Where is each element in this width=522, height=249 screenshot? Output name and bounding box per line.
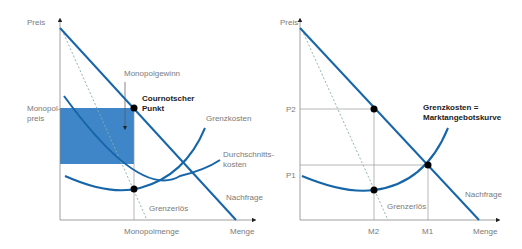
m2-label: M2 <box>368 227 380 236</box>
cournot-label-1: Cournotscher <box>142 94 194 103</box>
right-grenzkosten-curve <box>302 128 448 191</box>
durchschnittskosten-label-2: kosten <box>223 160 247 169</box>
left-chart: Preis Menge Monopolgewinn Cournotscher P… <box>27 18 274 236</box>
right-x-label: Menge <box>473 227 498 236</box>
monopolgewinn-label: Monopolgewinn <box>124 69 180 78</box>
right-nachfrage-line <box>300 28 479 220</box>
left-y-label: Preis <box>27 18 45 27</box>
left-grenzkosten-label: Grenzkosten <box>206 114 251 123</box>
right-y-label: Preis <box>280 18 298 27</box>
cournot-point <box>131 105 138 112</box>
right-chart: Preis Menge P2 P1 M2 M1 Grenzkosten = Ma… <box>280 18 502 236</box>
left-nachfrage-label: Nachfrage <box>226 193 263 202</box>
grenzkosten-label-1: Grenzkosten = <box>423 103 479 112</box>
m1-label: M1 <box>422 227 434 236</box>
durchschnittskosten-label-1: Durchschnitts- <box>223 150 274 159</box>
p1-m1-point <box>425 162 432 169</box>
right-nachfrage-label: Nachfrage <box>465 190 502 199</box>
monopolmenge-label: Monopolmenge <box>124 227 180 236</box>
chart-canvas: Preis Menge Monopolgewinn Cournotscher P… <box>0 0 522 249</box>
right-grenzerloes-label: Grenzerlös <box>387 202 426 211</box>
p1-label: P1 <box>286 171 296 180</box>
left-x-label: Menge <box>230 227 255 236</box>
p2-m2-point <box>371 106 378 113</box>
monopolpreis-label-2: preis <box>27 114 44 123</box>
monopolpreis-label-1: Monopol- <box>27 104 61 113</box>
left-mc-mr-point <box>131 186 138 193</box>
cournot-label-2: Punkt <box>142 104 165 113</box>
grenzkosten-label-2: Marktangebotskurve <box>423 113 502 122</box>
left-grenzerloes-label: Grenzerlös <box>149 204 188 213</box>
right-mc-mr-point <box>371 187 378 194</box>
p2-label: P2 <box>286 105 296 114</box>
